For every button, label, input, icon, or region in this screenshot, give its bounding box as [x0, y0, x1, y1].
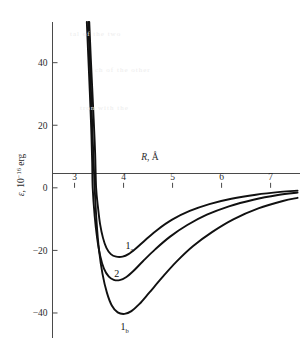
curve-label-1b: 1b	[120, 321, 128, 334]
y-axis-ticks: 40200−20−40	[33, 58, 58, 318]
y-tick-label-−40: −40	[33, 308, 48, 318]
y-axis-label-suffix: erg	[16, 154, 26, 166]
svg-text:ε, 10−16 erg: ε, 10−16 erg	[15, 154, 27, 197]
y-tick-label-40: 40	[38, 58, 48, 68]
y-tick-label-0: 0	[43, 183, 48, 193]
x-axis-label-unit: Å	[152, 151, 159, 162]
x-axis-label: R, Å	[140, 151, 159, 162]
y-tick-label-−20: −20	[33, 246, 48, 256]
x-tick-label-6: 6	[219, 172, 224, 182]
y-axis-label-mantissa: 10	[16, 178, 26, 188]
curve-annotations: 1a21b	[114, 240, 133, 334]
curve-label-2: 2	[114, 268, 119, 279]
y-tick-label-20: 20	[38, 121, 48, 131]
bleed-text-line-3: tron with the	[80, 104, 129, 112]
x-tick-label-3: 3	[72, 172, 77, 182]
bleed-text-line-2: ch of the other	[95, 66, 151, 74]
chart-svg: 34567 40200−20−40 1a21b R, Å ε, 10−16 er…	[0, 0, 304, 360]
bleed-text-line-1: tal of the two	[70, 30, 121, 38]
potential-energy-chart: 34567 40200−20−40 1a21b R, Å ε, 10−16 er…	[0, 0, 304, 360]
curve-2	[87, 22, 298, 280]
x-tick-label-7: 7	[268, 172, 273, 182]
x-axis-ticks: 34567	[72, 172, 273, 188]
curve-label-1a: 1a	[126, 240, 134, 253]
x-tick-label-5: 5	[170, 172, 175, 182]
y-axis-label: ε, 10−16 erg	[15, 154, 27, 197]
x-tick-label-4: 4	[121, 172, 126, 182]
svg-text:R, Å: R, Å	[140, 151, 159, 162]
